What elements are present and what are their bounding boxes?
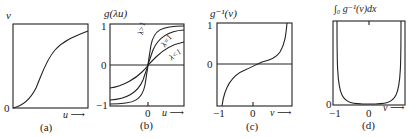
panel-a-y-tick-0: 0 — [4, 103, 10, 114]
panel-a-curve — [13, 31, 88, 108]
panel-b-y-tick-0: 0 — [101, 60, 107, 71]
panel-c-caption: (c) — [246, 121, 258, 132]
panel-a-frame — [13, 24, 88, 108]
panel-b-y-label: g(λu) — [104, 8, 127, 19]
panel-b-caption: (b) — [140, 120, 153, 131]
panel-c-y-tick-0: 0 — [207, 59, 213, 70]
panel-c-y-label: g⁻¹(v) — [210, 8, 237, 19]
panel-b-y-tick-neg1: −1 — [96, 100, 108, 111]
panel-c-y-tick-1: 1 — [207, 20, 213, 31]
panel-a-y-label: v — [6, 10, 11, 21]
panel-a-x-label: u ⟶ — [63, 110, 85, 120]
panel-d-x-tick-neg1: −1 — [329, 108, 341, 119]
panel-c-x-tick-0: 0 — [250, 108, 256, 119]
panel-d-curve — [337, 21, 401, 104]
panel-b-y-tick-1: 1 — [101, 21, 107, 32]
panel-d-x-label: v ⟶ — [383, 103, 404, 113]
panel-a-caption: (a) — [40, 122, 52, 133]
panel-c-x-label: v ⟶ — [270, 108, 291, 118]
panel-d-frame — [333, 21, 405, 105]
panel-b-x-tick-0: 0 — [145, 108, 151, 119]
panel-d-y-label: ∫₀ g⁻¹(v)dx — [334, 4, 377, 14]
panel-d-x-tick-0: 0 — [366, 108, 372, 119]
panel-d-caption: (d) — [362, 120, 375, 131]
panel-b-x-label: u ⟶ — [162, 108, 184, 118]
panel-c-x-tick-neg1: −1 — [213, 108, 225, 119]
